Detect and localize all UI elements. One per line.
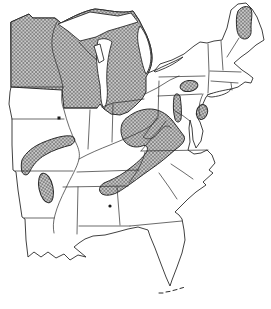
long-island	[207, 89, 231, 97]
region-ozark-band	[21, 136, 75, 175]
region-northern-maine	[236, 7, 252, 39]
figure-canvas	[0, 0, 271, 309]
border-ma-ct	[211, 81, 238, 83]
region-north-central-pennsylvania	[179, 79, 198, 92]
illinois-record-dot	[58, 117, 61, 120]
lake-ontario	[154, 57, 183, 72]
border-ms-al	[77, 187, 78, 234]
eastern-us-range-map	[0, 0, 271, 309]
border-vt-nh	[221, 41, 223, 70]
border-al-ga	[117, 187, 120, 225]
border-me-nh	[227, 38, 239, 57]
border-il-in	[88, 110, 90, 149]
mississippi-river	[53, 87, 79, 233]
region-ouachita-oval	[36, 172, 56, 204]
alabama-record-dot	[108, 204, 111, 207]
border-sc-ga	[159, 173, 177, 199]
florida-keys	[159, 288, 184, 294]
border-ma-north	[210, 71, 241, 72]
lake-erie-shore	[145, 76, 179, 94]
region-central-pennsylvania-ridge	[173, 94, 181, 122]
region-new-jersey-highlands	[195, 103, 210, 120]
border-nc-sc	[171, 164, 193, 179]
shaded-regions	[11, 7, 252, 205]
border-pa-ny	[159, 76, 205, 77]
border-ny-vt-hudson	[208, 44, 209, 93]
border-ga-fl	[130, 221, 182, 226]
